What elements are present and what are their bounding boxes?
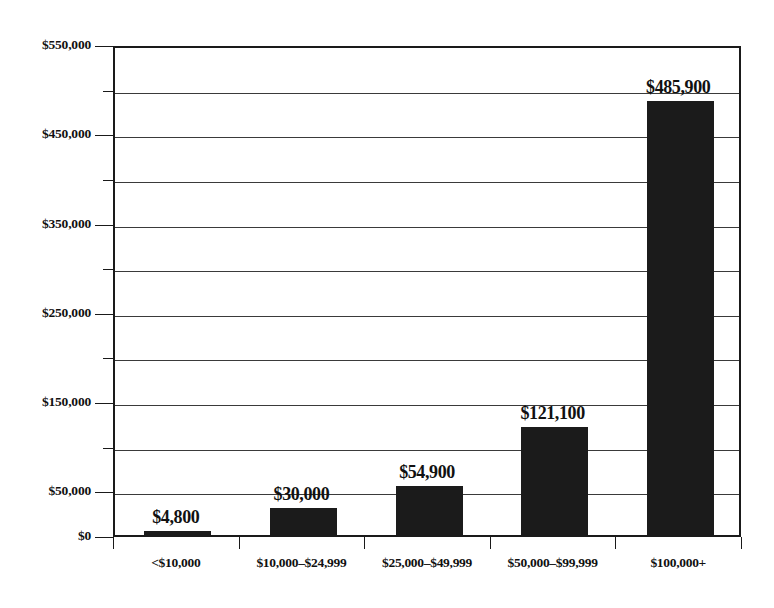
gridline xyxy=(115,450,739,451)
x-axis-tick xyxy=(490,537,491,549)
y-axis-label: $0 xyxy=(78,528,91,544)
bar xyxy=(647,101,714,535)
gridline xyxy=(115,405,739,406)
y-axis-label: $150,000 xyxy=(42,394,91,410)
bar-value-label: $121,100 xyxy=(473,403,633,424)
y-axis-tick-major xyxy=(95,135,114,136)
gridline xyxy=(115,271,739,272)
gridline xyxy=(115,182,739,183)
y-axis-label: $250,000 xyxy=(42,305,91,321)
x-axis-tick xyxy=(113,537,114,549)
y-axis-tick-major xyxy=(95,537,114,538)
bar xyxy=(396,486,463,535)
bar-value-label: $485,900 xyxy=(598,77,758,98)
bar-chart: $0$50,000$150,000$250,000$350,000$450,00… xyxy=(0,0,774,608)
y-axis-label: $350,000 xyxy=(42,216,91,232)
gridline xyxy=(115,227,739,228)
bar xyxy=(521,427,588,535)
bar xyxy=(144,531,211,535)
y-axis-tick-major xyxy=(95,225,114,226)
x-axis-label: $100,000+ xyxy=(598,555,758,571)
y-axis-label: $450,000 xyxy=(42,126,91,142)
gridline xyxy=(115,137,739,138)
x-axis-tick xyxy=(239,537,240,549)
x-axis-tick xyxy=(741,537,742,549)
y-axis-label: $550,000 xyxy=(42,37,91,53)
gridline xyxy=(115,316,739,317)
y-axis-tick-minor xyxy=(103,448,114,449)
y-axis-tick-major xyxy=(95,403,114,404)
bar xyxy=(270,508,337,535)
bar-value-label: $4,800 xyxy=(96,507,256,528)
bar-value-label: $54,900 xyxy=(347,462,507,483)
y-axis-tick-minor xyxy=(103,91,114,92)
y-axis-tick-major xyxy=(95,492,114,493)
y-axis-tick-major xyxy=(95,46,114,47)
y-axis-tick-major xyxy=(95,314,114,315)
bar-value-label: $30,000 xyxy=(221,484,381,505)
x-axis-tick xyxy=(615,537,616,549)
gridline xyxy=(115,360,739,361)
y-axis-tick-minor xyxy=(103,180,114,181)
y-axis-label: $50,000 xyxy=(49,483,91,499)
y-axis-tick-minor xyxy=(103,269,114,270)
y-axis-tick-minor xyxy=(103,358,114,359)
x-axis-tick xyxy=(364,537,365,549)
